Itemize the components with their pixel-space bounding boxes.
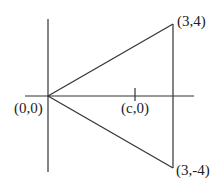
edge-origin-to-bottom [48, 96, 173, 168]
edge-origin-to-top [48, 24, 173, 96]
label-top-vertex: (3,4) [177, 13, 206, 30]
label-origin: (0,0) [14, 100, 43, 117]
diagram-canvas: (0,0) (3,4) (3,-4) (c,0) [0, 0, 222, 187]
label-bottom-vertex: (3,-4) [176, 162, 210, 179]
label-tick-c: (c,0) [121, 100, 149, 117]
